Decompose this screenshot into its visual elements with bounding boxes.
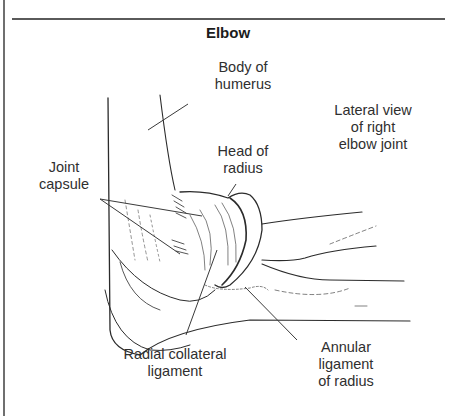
label-line: of radius xyxy=(303,373,389,390)
label-body-of-humerus: Body of humerus xyxy=(193,59,293,93)
label-line: humerus xyxy=(193,76,293,93)
leader-annular-ligament xyxy=(245,287,297,340)
label-line: Head of xyxy=(203,143,283,160)
leader-joint-capsule-2 xyxy=(100,199,180,254)
label-line: Radial collateral xyxy=(110,346,240,363)
label-joint-capsule: Joint capsule xyxy=(29,159,99,193)
label-line: Body of xyxy=(193,59,293,76)
label-line: of right xyxy=(318,119,428,136)
label-line: Annular xyxy=(303,339,389,356)
label-line: radius xyxy=(203,160,283,177)
label-lateral-view: Lateral view of right elbow joint xyxy=(318,102,428,153)
label-line: ligament xyxy=(303,356,389,373)
humerus-anterior-edge xyxy=(160,95,175,190)
label-head-of-radius: Head of radius xyxy=(203,143,283,177)
figure-frame: Elbow xyxy=(0,0,449,416)
leader-body-of-humerus xyxy=(148,104,188,130)
label-line: Joint xyxy=(29,159,99,176)
label-line: elbow joint xyxy=(318,136,428,153)
label-line: Lateral view xyxy=(318,102,428,119)
label-radial-collateral-ligament: Radial collateral ligament xyxy=(110,346,240,380)
radius-upper-edge xyxy=(262,212,362,224)
label-line: ligament xyxy=(110,363,240,380)
label-line: capsule xyxy=(29,176,99,193)
label-annular-ligament: Annular ligament of radius xyxy=(303,339,389,390)
leader-joint-capsule-1 xyxy=(100,199,202,216)
